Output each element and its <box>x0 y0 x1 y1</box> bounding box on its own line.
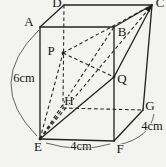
dimension-label-1: 4cm <box>70 139 92 153</box>
vertex-label-D: D <box>52 0 61 10</box>
vertex-label-A: A <box>24 14 34 29</box>
point-dot-Q <box>113 76 116 79</box>
vertex-label-P: P <box>47 43 54 58</box>
vertex-label-B: B <box>118 24 127 39</box>
figure-container: ABCDEFGHPQ6cm4cm4cm <box>0 0 166 167</box>
edge-EQ <box>40 77 114 139</box>
vertex-label-G: G <box>145 98 154 113</box>
point-dot-P <box>62 52 65 55</box>
vertex-label-C: C <box>156 0 165 10</box>
vertex-label-Q: Q <box>117 71 127 86</box>
dimension-label-0: 6cm <box>13 71 35 85</box>
edge-FG <box>114 110 143 141</box>
vertex-label-F: F <box>116 141 123 156</box>
dimension-label-2: 4cm <box>141 119 163 133</box>
vertex-label-H: H <box>64 93 73 108</box>
dashed-line-EP <box>40 53 63 139</box>
cuboid-figure: ABCDEFGHPQ6cm4cm4cm <box>0 0 166 167</box>
vertex-label-E: E <box>34 139 42 154</box>
